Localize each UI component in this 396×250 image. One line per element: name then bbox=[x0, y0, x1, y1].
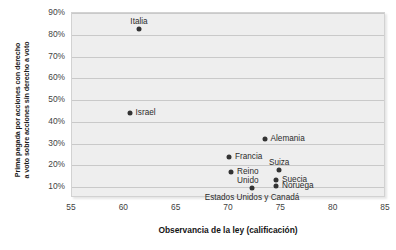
data-point-label: ReinoUnido bbox=[237, 167, 258, 186]
data-point-label: Suiza bbox=[269, 158, 289, 167]
gridline-70pct bbox=[72, 57, 384, 58]
y-tick-label: 10% bbox=[48, 181, 65, 191]
y-tick-label: 40% bbox=[48, 116, 65, 126]
x-tick-label: 65 bbox=[171, 202, 180, 212]
data-point-label: Israel bbox=[136, 108, 156, 117]
y-tick-label: 30% bbox=[48, 138, 65, 148]
y-tick-label: 80% bbox=[48, 29, 65, 39]
scatter-chart: Prima pagada por acciones con derecho a … bbox=[0, 0, 396, 250]
data-point[interactable] bbox=[250, 186, 255, 191]
y-axis-title-line-2: a voto sobre acciones sin derecho a voto bbox=[22, 10, 31, 210]
x-axis-tick-labels: 55606570758085 bbox=[0, 202, 396, 218]
y-tick-label: 90% bbox=[48, 7, 65, 17]
gridline-90pct bbox=[72, 13, 384, 14]
data-point-label: Noruega bbox=[282, 181, 313, 190]
data-point[interactable] bbox=[137, 27, 142, 32]
x-tick-label: 55 bbox=[66, 202, 75, 212]
data-point[interactable] bbox=[227, 154, 232, 159]
y-tick-label: 50% bbox=[48, 94, 65, 104]
gridline-60pct bbox=[72, 78, 384, 79]
x-tick-label: 60 bbox=[119, 202, 128, 212]
x-tick-label: 70 bbox=[223, 202, 232, 212]
gridline-40pct bbox=[72, 122, 384, 123]
y-tick-label: 20% bbox=[48, 159, 65, 169]
x-tick-label: 80 bbox=[328, 202, 337, 212]
y-tick-label: 70% bbox=[48, 51, 65, 61]
x-axis-title: Observancia de la ley (calificación) bbox=[71, 225, 385, 235]
data-point[interactable] bbox=[274, 177, 279, 182]
data-point[interactable] bbox=[127, 111, 132, 116]
data-point[interactable] bbox=[277, 167, 282, 172]
plot-area: ItaliaIsraelAlemaniaFranciaSuizaReinoUni… bbox=[71, 12, 385, 197]
y-tick-label: 60% bbox=[48, 72, 65, 82]
data-point-label: Francia bbox=[235, 152, 262, 161]
gridline-10pct bbox=[72, 187, 384, 188]
gridline-30pct bbox=[72, 144, 384, 145]
data-point[interactable] bbox=[262, 137, 267, 142]
data-point[interactable] bbox=[274, 184, 279, 189]
y-axis-title-line-1: Prima pagada por acciones con derecho bbox=[13, 10, 22, 210]
gridline-80pct bbox=[72, 35, 384, 36]
gridline-20pct bbox=[72, 165, 384, 166]
data-point-label: Alemania bbox=[271, 134, 305, 143]
data-point[interactable] bbox=[229, 169, 234, 174]
data-point-label: Italia bbox=[130, 17, 147, 26]
x-tick-label: 85 bbox=[380, 202, 389, 212]
x-tick-label: 75 bbox=[276, 202, 285, 212]
gridline-50pct bbox=[72, 100, 384, 101]
